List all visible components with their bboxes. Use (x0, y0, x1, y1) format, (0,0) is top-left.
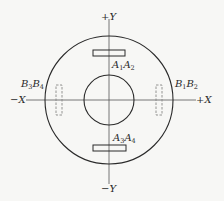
label-b1b2: B1B2 (175, 79, 198, 91)
label-pos-x: +X (196, 95, 212, 105)
coil-a3a4 (93, 145, 126, 151)
label-pos-y: +Y (101, 12, 116, 22)
label-neg-y: −Y (101, 184, 116, 194)
label-neg-x: −X (10, 95, 26, 105)
coil-layout-diagram (0, 0, 224, 201)
label-b3b4: B3B4 (21, 79, 44, 91)
label-a1a2: A1A2 (112, 60, 135, 72)
label-a3a4: A3A4 (113, 133, 136, 145)
